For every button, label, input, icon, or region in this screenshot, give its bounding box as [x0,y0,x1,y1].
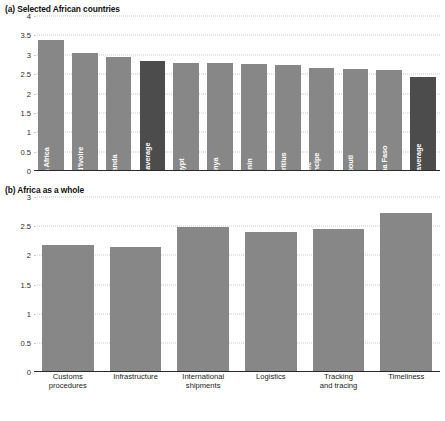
bar-label: Benin [245,158,253,178]
chart-a-bars: South AfricaCôte d'IvoireRwandaGlobal av… [34,16,440,171]
bar-slot[interactable] [102,197,170,372]
x-axis-label-line: and tracing [306,381,372,390]
x-axis-label: Timeliness [372,372,440,390]
x-axis-label-line: Infrastructure [103,372,169,381]
panel-a-title: (a) Selected African countries [5,4,445,14]
bar-label: Côte d'Ivoire [76,146,84,189]
y-tick-label: 1.5 [20,108,31,117]
bar[interactable]: Djibouti [343,69,369,171]
x-axis-label: Customsprocedures [34,372,102,390]
bar-label: Kenya [212,157,220,179]
chart-a-grid-area: South AfricaCôte d'IvoireRwandaGlobal av… [34,16,440,171]
x-axis-label-line: shipments [170,381,236,390]
chart-a-y-axis: 00.511.522.533.54 [0,16,34,171]
bar[interactable]: Côte d'Ivoire [72,53,98,171]
bar-slot[interactable]: Côte d'Ivoire [68,16,102,171]
y-tick-label: 3.5 [20,31,31,40]
x-axis-label-line: Customs [35,372,101,381]
bar-slot[interactable]: Sao Tomeand Principe [305,16,339,171]
panel-b-title: (b) Africa as a whole [5,185,445,195]
bar[interactable] [177,227,228,372]
y-tick-label: 4 [27,12,31,21]
bar-label: South Africa [43,147,51,189]
bar-slot[interactable]: Djibouti [338,16,372,171]
bar-label: Egypt [178,158,186,178]
bar[interactable]: Egypt [173,63,199,172]
bar-slot[interactable]: Benin [237,16,271,171]
panel-africa-as-a-whole: (b) Africa as a whole 00.511.522.53 Cust… [0,185,445,372]
chart-b-bars [34,197,440,372]
chart-b-grid-area [34,197,440,372]
chart-a-baseline [34,170,440,171]
bar-slot[interactable] [237,197,305,372]
x-axis-label: Logistics [237,372,305,390]
bar-slot[interactable]: South Africa [34,16,68,171]
bar-slot[interactable]: Mauritius [271,16,305,171]
x-axis-label-line: procedures [35,381,101,390]
chart-b-y-axis: 00.511.522.53 [0,197,34,372]
y-tick-label: 2.5 [20,70,31,79]
x-axis-label-line: Timeliness [373,372,439,381]
bar-slot[interactable]: Burkina Faso [372,16,406,171]
bar-slot[interactable]: Kenya [203,16,237,171]
bar-slot[interactable] [305,197,373,372]
y-tick-label: 2.5 [20,222,31,231]
bar[interactable]: Rwanda [106,57,132,171]
bar-slot[interactable]: Rwanda [102,16,136,171]
y-tick-label: 0 [27,368,31,377]
y-tick-label: 2 [27,89,31,98]
x-axis-label: Trackingand tracing [305,372,373,390]
x-axis-label-line: Tracking [306,372,372,381]
bar[interactable]: Sao Tomeand Principe [309,68,335,171]
y-tick-label: 2 [27,251,31,260]
bar[interactable]: Burkina Faso [376,70,402,171]
chart-a-plot-area: 00.511.522.533.54 South AfricaCôte d'Ivo… [0,16,440,171]
bar[interactable]: Global average [140,61,166,171]
bar[interactable]: Benin [241,64,267,171]
bar-label: Rwanda [110,154,118,182]
y-tick-label: 0.5 [20,338,31,347]
bar[interactable] [110,247,161,372]
y-tick-label: 1.5 [20,280,31,289]
y-tick-label: 3 [27,193,31,202]
bar[interactable] [380,213,431,372]
bar[interactable]: South Africa [38,40,64,171]
bar-slot[interactable]: Egypt [169,16,203,171]
x-axis-label-line: International [170,372,236,381]
y-tick-label: 1 [27,128,31,137]
bar-slot[interactable]: Africa average [406,16,440,171]
x-axis-label: Internationalshipments [169,372,237,390]
bar[interactable]: Africa average [410,77,436,171]
panel-selected-african-countries: (a) Selected African countries 00.511.52… [0,4,445,171]
bar-label: Burkina Faso [381,145,389,191]
bar[interactable] [313,229,364,373]
bar[interactable]: Mauritius [275,65,301,171]
y-tick-label: 3 [27,50,31,59]
x-axis-label: Infrastructure [102,372,170,390]
bar-label: Mauritius [279,152,287,184]
bar-slot[interactable] [169,197,237,372]
bar[interactable] [42,245,93,372]
bar-label: Djibouti [347,155,355,182]
chart-b-x-axis-labels: CustomsproceduresInfrastructureInternati… [34,372,440,390]
x-axis-label-line: Logistics [238,372,304,381]
bar-slot[interactable] [372,197,440,372]
bar[interactable] [245,232,296,372]
bar-slot[interactable] [34,197,102,372]
chart-b-plot-area: 00.511.522.53 [0,197,440,372]
y-tick-label: 0 [27,167,31,176]
y-tick-label: 1 [27,309,31,318]
y-tick-label: 0.5 [20,147,31,156]
bar-slot[interactable]: Global average [135,16,169,171]
bar[interactable]: Kenya [207,63,233,171]
